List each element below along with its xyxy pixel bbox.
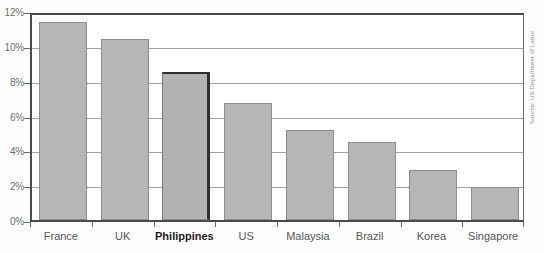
x-axis-tick-mark bbox=[401, 222, 402, 227]
y-axis-tick-label: 12% bbox=[0, 8, 24, 18]
bar-singapore bbox=[471, 187, 519, 220]
bar-series bbox=[32, 15, 523, 220]
x-axis-label-brazil: Brazil bbox=[339, 229, 401, 243]
bar-philippines bbox=[162, 72, 210, 220]
y-axis-labels: 0%2%4%6%8%10%12% bbox=[0, 0, 28, 253]
bar-malaysia bbox=[286, 130, 334, 220]
x-axis-tick-mark bbox=[523, 222, 524, 227]
bar-us bbox=[224, 103, 272, 220]
y-axis-tick-label: 2% bbox=[0, 182, 24, 192]
bar-uk bbox=[101, 39, 149, 220]
x-axis-tick-mark bbox=[92, 222, 93, 227]
source-note: Source: US Department of Labor bbox=[528, 12, 536, 124]
x-axis-label-singapore: Singapore bbox=[462, 229, 524, 243]
x-axis-tick-mark bbox=[215, 222, 216, 227]
y-axis-tick-label: 10% bbox=[0, 43, 24, 53]
bar-korea bbox=[409, 170, 457, 220]
plot-area bbox=[30, 13, 524, 222]
x-axis-label-uk: UK bbox=[92, 229, 154, 243]
x-axis-ticks bbox=[30, 222, 524, 228]
x-axis-tick-mark bbox=[30, 222, 31, 227]
x-axis-label-korea: Korea bbox=[401, 229, 463, 243]
x-axis-label-us: US bbox=[215, 229, 277, 243]
bar-france bbox=[39, 22, 87, 220]
x-axis-label-malaysia: Malaysia bbox=[277, 229, 339, 243]
x-axis-tick-mark bbox=[339, 222, 340, 227]
x-axis-label-philippines: Philippines bbox=[154, 229, 216, 243]
y-axis-tick-label: 0% bbox=[0, 217, 24, 227]
chart-screenshot: 0%2%4%6%8%10%12% FranceUKPhilippinesUSMa… bbox=[0, 0, 544, 253]
x-axis-label-france: France bbox=[30, 229, 92, 243]
y-axis-tick-label: 4% bbox=[0, 147, 24, 157]
x-axis-tick-mark bbox=[154, 222, 155, 227]
y-axis-tick-label: 8% bbox=[0, 78, 24, 88]
x-axis-labels: FranceUKPhilippinesUSMalaysiaBrazilKorea… bbox=[30, 229, 524, 253]
x-axis-tick-mark bbox=[277, 222, 278, 227]
y-axis-tick-label: 6% bbox=[0, 113, 24, 123]
x-axis-tick-mark bbox=[462, 222, 463, 227]
bar-brazil bbox=[348, 142, 396, 220]
